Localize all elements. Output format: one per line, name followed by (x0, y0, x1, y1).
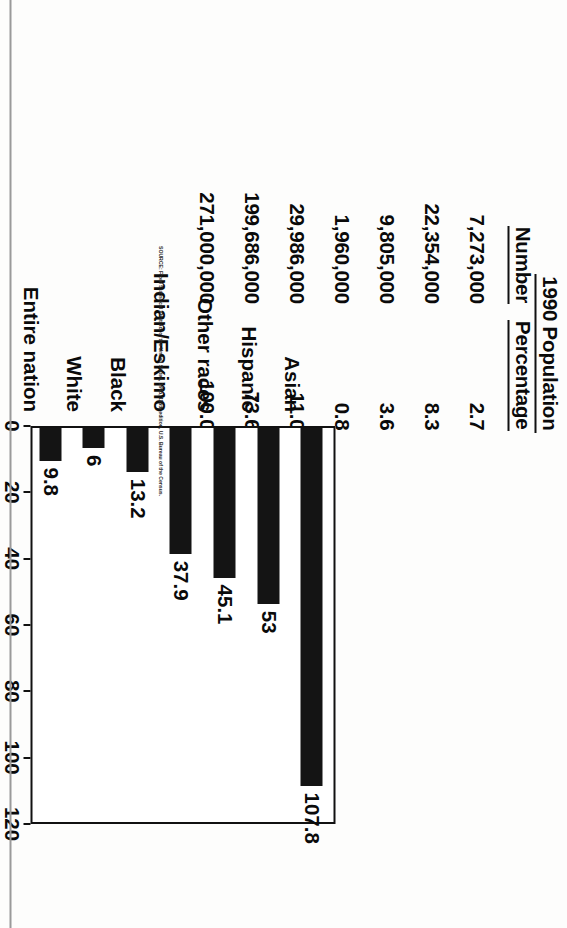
category-axis-labels: AsianHispanicOther racesIndian/EskimoBla… (51, 246, 313, 422)
table-row: 22,354,000 8.3 (417, 128, 462, 433)
cell-percentage: 2.7 (462, 320, 507, 433)
category-label-asian: Asian (281, 356, 302, 412)
table-row: 9,805,000 3.6 (372, 128, 417, 433)
category-label-black: Black (106, 357, 127, 412)
column-header-percentage: Percentage (507, 320, 534, 433)
bar (126, 428, 148, 472)
table-row: 7,273,000 2.7 (462, 128, 507, 433)
bar (170, 428, 192, 554)
column-header-number: Number (507, 128, 534, 320)
category-label-hispanic: Hispanic (237, 327, 258, 412)
population-table: 1990 Population Number Percentage 7,273,… (361, 0, 561, 928)
bar (300, 428, 322, 786)
bar-value-label: 107.8 (301, 793, 322, 844)
cell-percentage: 8.3 (417, 320, 462, 433)
bar (213, 428, 235, 578)
category-label-entire-nation: Entire nation (19, 287, 40, 412)
scanned-page: 1990 Population Number Percentage 7,273,… (0, 0, 567, 928)
bar (39, 428, 61, 461)
axis-tick (23, 425, 30, 427)
bar-chart: AsianHispanicOther racesIndian/EskimoBla… (30, 246, 335, 910)
table-header-group: 1990 Population (534, 128, 561, 433)
axis-tick (23, 757, 30, 759)
axis-tick (23, 491, 30, 493)
bar-value-label: 13.2 (126, 479, 147, 519)
bar (82, 428, 104, 448)
category-label-white: White (63, 356, 84, 412)
bar (257, 428, 279, 604)
bar-value-label: 45.1 (214, 585, 235, 625)
cell-number: 7,273,000 (462, 128, 507, 320)
cell-number: 22,354,000 (417, 128, 462, 320)
category-label-other-races: Other races (194, 298, 215, 412)
plot-area: 107.85345.137.913.269.8 (30, 426, 335, 824)
bar-value-label: 9.8 (39, 468, 60, 497)
cell-number: 9,805,000 (372, 128, 417, 320)
source-note: SOURCE: From Statistical Abstract of the… (157, 246, 163, 926)
axis-tick (23, 558, 30, 560)
axis-tick (23, 624, 30, 626)
axis-tick (23, 823, 30, 825)
page-divider-rule (9, 0, 11, 928)
bar-value-label: 6 (83, 455, 104, 466)
cell-percentage: 3.6 (372, 320, 417, 433)
bar-value-label: 37.9 (170, 561, 191, 601)
axis-tick (23, 690, 30, 692)
bar-value-label: 53 (257, 611, 278, 634)
